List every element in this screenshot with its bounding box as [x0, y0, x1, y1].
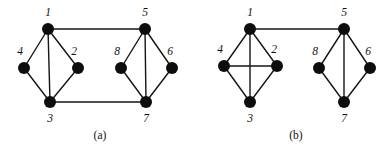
graph-node-label-5: 5 [341, 6, 347, 18]
graph-edge-5-7 [145, 29, 146, 102]
graph-node-8 [115, 62, 127, 74]
graph-node-3 [44, 96, 56, 108]
graph-edge-2-3 [50, 68, 78, 102]
nodes-layer [18, 23, 376, 108]
graph-node-6 [364, 62, 376, 74]
graph-node-label-7: 7 [341, 112, 348, 124]
graph-node-5 [139, 23, 151, 35]
graph-edge-4-3 [224, 66, 250, 102]
graph-node-label-8: 8 [312, 45, 318, 57]
graph-node-label-2: 2 [271, 43, 277, 55]
graph-node-label-8: 8 [114, 45, 120, 57]
graph-node-8 [313, 62, 325, 74]
panel-caption-1: (b) [289, 129, 303, 142]
graph-edge-6-7 [344, 68, 370, 102]
graph-edge-8-7 [121, 68, 146, 102]
graph-node-label-1: 1 [247, 6, 253, 18]
panel-caption-0: (a) [94, 129, 107, 142]
graph-node-label-6: 6 [365, 45, 371, 57]
graph-node-3 [244, 96, 256, 108]
graph-edge-4-3 [24, 68, 50, 102]
graph-node-label-4: 4 [17, 45, 23, 57]
graph-svg-canvas: 1234567812345678 (a)(b) [0, 0, 392, 153]
graph-edge-6-7 [146, 68, 172, 102]
graph-node-7 [140, 96, 152, 108]
graph-node-2 [72, 62, 84, 74]
graph-node-label-2: 2 [71, 45, 77, 57]
graph-edge-5-8 [121, 29, 145, 68]
graph-node-label-3: 3 [46, 112, 53, 124]
graph-node-6 [166, 62, 178, 74]
graph-edge-1-4 [224, 29, 250, 66]
graph-node-label-3: 3 [246, 112, 253, 124]
graph-edge-1-4 [24, 29, 48, 68]
graph-node-label-5: 5 [142, 6, 148, 18]
graph-node-1 [42, 23, 54, 35]
graph-node-7 [338, 96, 350, 108]
graph-edge-8-7 [319, 68, 344, 102]
captions-layer: (a)(b) [94, 129, 303, 142]
graph-edge-2-3 [250, 66, 277, 102]
graph-edge-5-8 [319, 29, 344, 68]
graph-node-label-4: 4 [217, 43, 223, 55]
graph-node-1 [244, 23, 256, 35]
graph-node-label-1: 1 [45, 6, 51, 18]
graph-node-label-7: 7 [143, 112, 150, 124]
graph-node-4 [18, 62, 30, 74]
graph-node-5 [338, 23, 350, 35]
graph-node-2 [271, 60, 283, 72]
graph-edge-1-3 [48, 29, 50, 102]
graph-figure: 1234567812345678 (a)(b) [0, 0, 392, 153]
graph-node-4 [218, 60, 230, 72]
graph-node-label-6: 6 [167, 45, 173, 57]
